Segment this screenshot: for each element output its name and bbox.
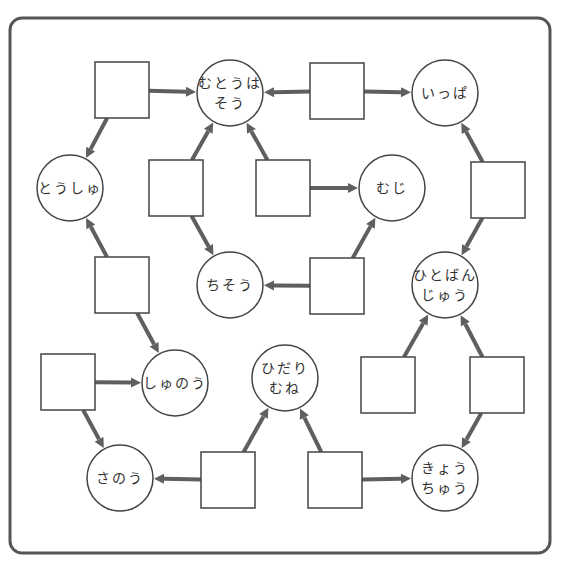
word-label: ひだり (261, 360, 309, 376)
answer-box-8[interactable] (41, 354, 95, 410)
word-label: とうしゅ (38, 180, 102, 196)
word-label: じゅう (421, 287, 469, 303)
word-label: むね (269, 380, 301, 396)
answer-box-5[interactable] (471, 162, 525, 218)
word-label: ひとばん (413, 267, 477, 283)
word-circle (412, 252, 478, 318)
word-node-ippa: いっぱ (412, 60, 478, 126)
arrow-shaft (164, 479, 201, 480)
answer-box-4[interactable] (256, 160, 310, 216)
word-node-toushu: とうしゅ (37, 155, 103, 221)
answer-box-6[interactable] (95, 257, 149, 313)
word-label: ちそう (206, 277, 254, 293)
word-node-shunou: しゅのう (142, 350, 208, 416)
word-node-mutouhasou: むとうはそう (197, 60, 263, 126)
word-label: そう (214, 95, 246, 111)
arrow-shaft (149, 91, 186, 92)
word-node-sanou: さのう (87, 445, 153, 511)
word-label: さのう (96, 470, 144, 486)
hiragana-word-diagram: むとうはそういっぱとうしゅむじちそうひとばんじゅうしゅのうひだりむねさのうきょう… (0, 0, 561, 566)
answer-box-9[interactable] (361, 357, 415, 413)
word-label: むとうは (198, 75, 262, 91)
word-node-hitobanjuu: ひとばんじゅう (412, 252, 478, 318)
arrow-shaft (364, 92, 401, 93)
word-circle (252, 345, 318, 411)
word-label: しゅのう (143, 375, 207, 391)
answer-box-2[interactable] (310, 63, 364, 119)
word-node-muji: むじ (359, 155, 425, 221)
answer-box-3[interactable] (149, 160, 203, 216)
word-node-kyouchuu: きょうちゅう (412, 445, 478, 511)
answer-box-12[interactable] (308, 452, 362, 508)
answer-box-10[interactable] (470, 357, 524, 413)
arrow-shaft (274, 92, 310, 93)
word-node-chisou: ちそう (197, 252, 263, 318)
word-circle (412, 445, 478, 511)
word-node-hidarimune: ひだりむね (252, 345, 318, 411)
word-label: きょう (421, 460, 469, 476)
arrow-shaft (362, 479, 401, 480)
word-label: いっぱ (421, 85, 469, 101)
word-label: むじ (376, 180, 408, 196)
answer-box-7[interactable] (310, 258, 364, 314)
word-label: ちゅう (421, 480, 469, 496)
answer-box-11[interactable] (201, 452, 255, 508)
answer-box-1[interactable] (95, 62, 149, 118)
word-circle (197, 60, 263, 126)
